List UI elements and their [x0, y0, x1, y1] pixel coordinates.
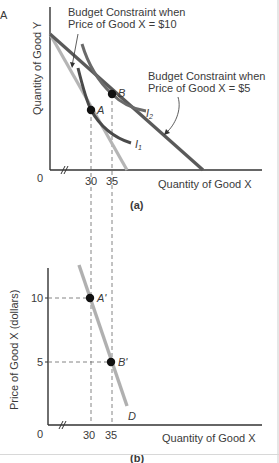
annotation-arrow-price-5 — [166, 97, 179, 133]
budget-annotation-price-10: Budget Constraint when Price of Good X =… — [68, 6, 188, 30]
panel-b-x-axis-label: Quantity of Good X — [162, 432, 256, 444]
point-a-prime-label: A' — [96, 292, 107, 304]
curve-i1-label: I1 — [135, 138, 142, 151]
panel-a-origin-label: 0 — [37, 172, 43, 184]
demand-derivation-diagram: A A B I2 I1 Budget Constraint when Price — [0, 0, 279, 463]
indifference-curve-i2 — [82, 44, 146, 111]
point-b-prime — [107, 358, 115, 366]
panel-b: A' B' D 10 5 0 30 35 Quantity of Good X … — [8, 265, 262, 463]
point-b-prime-label: B' — [118, 356, 128, 368]
panel-a: A B I2 I1 Budget Constraint when Price o… — [31, 6, 268, 362]
panel-b-y-tick-5: 5 — [37, 356, 43, 368]
panel-b-x-tick-30: 30 — [83, 429, 95, 441]
arrowhead-icon — [70, 62, 75, 68]
panel-b-origin-label: 0 — [37, 428, 43, 440]
point-a — [87, 106, 95, 114]
panel-a-x-tick-30: 30 — [85, 175, 97, 187]
panel-a-x-tick-35: 35 — [106, 175, 118, 187]
panel-b-y-axis-label: Price of Good X (dollars) — [8, 290, 20, 410]
panel-a-y-axis-label: Quantity of Good Y — [31, 21, 43, 115]
panel-b-x-tick-35: 35 — [105, 429, 117, 441]
point-a-prime — [86, 294, 94, 302]
demand-curve — [79, 265, 127, 406]
curve-i2-label: I2 — [146, 107, 153, 120]
budget-annotation-price-5: Budget Constraint when Price of Good X =… — [148, 70, 268, 94]
panel-b-y-tick-10: 10 — [31, 292, 43, 304]
point-b — [108, 90, 116, 98]
budget-line-price-5 — [50, 34, 203, 170]
demand-label: D — [128, 410, 136, 422]
annotation-arrow-price-10 — [72, 34, 78, 66]
margin-fragment: A — [0, 9, 8, 21]
panel-a-caption: (a) — [130, 199, 144, 211]
page-edge — [277, 0, 279, 463]
page-divider — [0, 454, 279, 455]
point-a-label: A — [96, 104, 104, 116]
point-b-label: B — [118, 87, 125, 99]
panel-a-x-axis-label: Quantity of Good X — [158, 178, 252, 190]
